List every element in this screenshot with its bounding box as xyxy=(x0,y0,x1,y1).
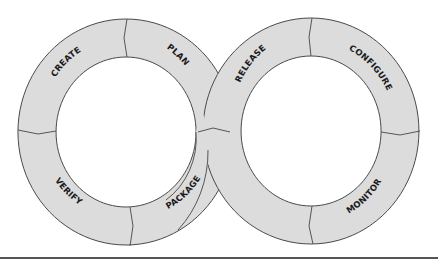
devops-infinity-diagram: CREATE PLAN VERIFY PACKAGE RELEASE CONFI… xyxy=(0,0,438,262)
bottom-rule xyxy=(0,257,438,259)
